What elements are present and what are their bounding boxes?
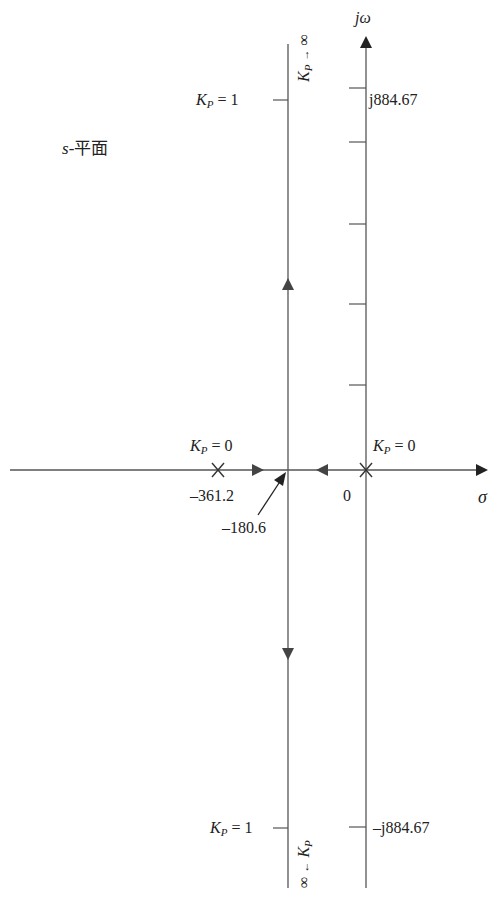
imag-axis-arrowhead xyxy=(360,36,372,48)
origin-label: 0 xyxy=(343,488,351,504)
plane-label: s-平面 xyxy=(62,140,108,157)
arrow-up-icon xyxy=(282,278,294,290)
arrow-down-icon xyxy=(282,648,294,660)
breakaway-pointer xyxy=(258,480,281,515)
origin-pole-gain-label: KP = 0 xyxy=(373,438,415,456)
lower-imag-value: –j884.67 xyxy=(373,820,429,836)
upper-gain-label: KP = 1 xyxy=(196,92,238,110)
breakaway-value: –180.6 xyxy=(222,520,266,536)
real-axis-arrowhead xyxy=(476,464,488,476)
arrow-left-icon xyxy=(316,464,328,476)
lower-gain-label: KP = 1 xyxy=(210,820,252,838)
left-pole-gain-label: KP = 0 xyxy=(190,438,232,456)
lower-infinity-label: ∞ ← KP xyxy=(296,840,314,888)
upper-infinity-label: KP → ∞ xyxy=(296,34,314,82)
arrow-right-icon xyxy=(252,464,264,476)
real-axis-label: σ xyxy=(478,488,487,506)
imag-axis-label: jω xyxy=(355,10,371,26)
root-locus-plot xyxy=(0,0,502,906)
breakaway-pointer-head xyxy=(274,472,286,486)
upper-imag-value: j884.67 xyxy=(369,92,417,108)
left-pole-value: –361.2 xyxy=(190,488,234,504)
